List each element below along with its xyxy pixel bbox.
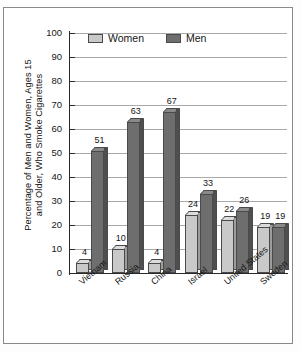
plot-area	[70, 33, 287, 273]
bar-value-label: 26	[231, 195, 257, 205]
legend-label-men: Men	[186, 32, 206, 44]
y-tick-label: 10	[36, 243, 62, 254]
bar-value-label: 4	[72, 247, 98, 257]
bar-front-face	[185, 215, 198, 273]
bar-value-label: 4	[144, 247, 170, 257]
y-tick-label: 50	[36, 147, 62, 158]
bar-value-label: 22	[216, 204, 242, 214]
y-tick-label: 20	[36, 219, 62, 230]
x-axis-line	[69, 273, 288, 274]
bar-front-face	[127, 122, 140, 273]
y-tick-label: 70	[36, 99, 62, 110]
legend-item-men: Men	[166, 32, 206, 44]
y-tick-label: 90	[36, 51, 62, 62]
legend-item-women: Women	[88, 32, 144, 44]
bar-israel-women	[185, 215, 198, 273]
legend-swatch-women-icon	[88, 34, 103, 43]
bar-value-label: 24	[180, 199, 206, 209]
bar-united-states-women	[221, 220, 234, 273]
bar-side-face	[104, 148, 108, 270]
y-tick-label: 40	[36, 171, 62, 182]
bar-value-label: 10	[108, 233, 134, 243]
bar-value-label: 51	[87, 135, 113, 145]
chart-legend: Women Men	[88, 32, 206, 44]
chart-figure: Percentage of Men and Women, Ages 15 and…	[0, 0, 301, 351]
y-axis-title-line1: Percentage of Men and Women, Ages 15	[23, 59, 33, 230]
bar-front-face	[221, 220, 234, 273]
bar-value-label: 63	[123, 106, 149, 116]
y-tick-label: 0	[36, 267, 62, 278]
y-tick-label: 80	[36, 75, 62, 86]
bar-side-face	[176, 109, 180, 270]
bar-value-label: 67	[159, 96, 185, 106]
bar-value-label: 19	[267, 211, 293, 221]
y-tick-label: 30	[36, 195, 62, 206]
bar-russia-men	[127, 122, 140, 273]
y-tick-label: 100	[36, 27, 62, 38]
bar-side-face	[213, 191, 217, 270]
bar-value-label: 33	[195, 178, 221, 188]
legend-label-women: Women	[108, 32, 144, 44]
legend-swatch-men-icon	[166, 34, 181, 43]
y-tick-label: 60	[36, 123, 62, 134]
